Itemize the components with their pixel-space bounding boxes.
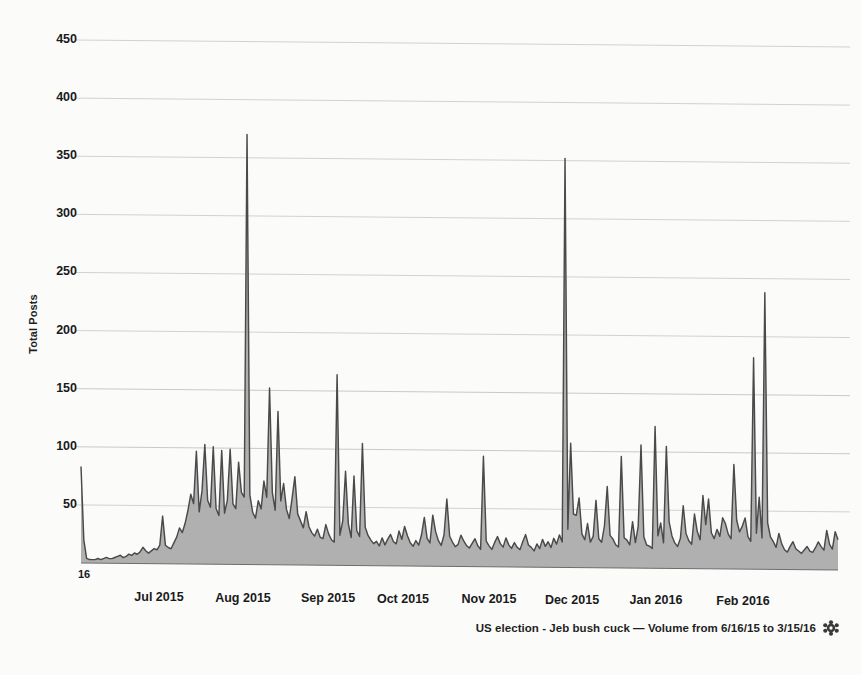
y-axis-tick-label: 400 — [37, 91, 77, 104]
chart-container: Total Posts 50100150200250300350400450 1… — [0, 0, 861, 675]
chart-caption-bar: US election - Jeb bush cuck — Volume fro… — [0, 620, 861, 636]
x-axis-tick-labels: Jul 2015Aug 2015Sep 2015Oct 2015Nov 2015… — [0, 586, 861, 608]
plot-area — [0, 0, 861, 675]
x-axis-tick-label: Feb 2016 — [716, 594, 770, 608]
y-axis-tick-label: 50 — [37, 498, 77, 511]
gear-icon[interactable] — [823, 620, 839, 636]
series-line — [81, 135, 838, 560]
gridlines-group — [75, 40, 850, 512]
y-axis-tick-label: 300 — [37, 207, 77, 220]
chart-caption-text: US election - Jeb bush cuck — Volume fro… — [476, 622, 816, 634]
x-axis-tick-label: Jul 2015 — [134, 590, 183, 604]
x-axis-tick-label: Sep 2015 — [301, 591, 355, 605]
y-axis-tick-label: 350 — [37, 149, 77, 162]
y-axis-tick-label: 150 — [37, 382, 77, 395]
y-axis-tick-label: 250 — [37, 265, 77, 278]
y-axis-tick-label: 200 — [37, 324, 77, 337]
x-axis-tick-label: Nov 2015 — [462, 592, 517, 606]
x-axis-origin-label: 16 — [78, 568, 90, 580]
y-axis-tick-labels: 50100150200250300350400450 — [37, 0, 77, 675]
x-axis-tick-label: Dec 2015 — [545, 593, 599, 607]
series-area-fill — [81, 135, 838, 570]
x-axis-tick-label: Jan 2016 — [630, 593, 683, 607]
y-axis-tick-label: 450 — [37, 33, 77, 46]
volume-area-chart-svg — [0, 0, 861, 675]
x-axis-tick-label: Oct 2015 — [377, 592, 429, 606]
x-axis-tick-label: Aug 2015 — [215, 591, 271, 605]
y-axis-tick-label: 100 — [37, 440, 77, 453]
series-group — [81, 135, 838, 570]
